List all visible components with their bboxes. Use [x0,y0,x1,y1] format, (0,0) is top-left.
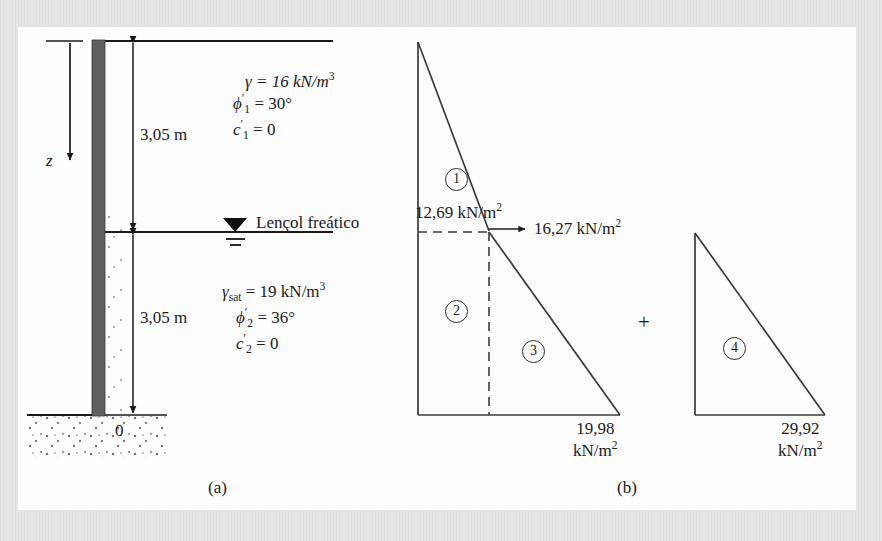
water-table-triangle-icon [223,218,247,232]
value-19-98: 19,98 [573,419,618,439]
value-29-92: 29,92 [778,419,823,439]
layer2-properties: γsat = 19 kN/m3 ϕ′2 = 36° c′2 = 0 [222,280,325,358]
label-pressure-19-98: 19,98 kN/m2 [573,419,618,461]
unit-29-92: kN/m2 [778,439,823,461]
region3-diagonal [489,232,620,415]
caption-a: (a) [208,478,227,498]
z-axis-label: z [46,150,53,172]
figure-root: z 3,05 m 3,05 m 0 Lençol freático γ = 16… [0,0,882,541]
label-pressure-16-27: 16,27 kN/m2 [534,217,621,239]
layer1-cohesion: c′1 = 0 [233,118,335,144]
layer2-unit-weight: γsat = 19 kN/m3 [222,280,325,306]
region-3-marker: 3 [522,340,545,363]
dimension-label-layer1: 3,05 m [140,124,187,146]
backfill-stipple [106,216,132,415]
label-pressure-29-92: 29,92 kN/m2 [778,419,823,461]
layer2-friction-angle: ϕ′2 = 36° [236,306,325,332]
dimension-label-layer2: 3,05 m [140,307,187,329]
caption-b: (b) [617,478,637,498]
unit-19-98: kN/m2 [573,439,618,461]
region-2-marker: 2 [445,300,468,323]
retaining-wall [92,40,105,416]
layer1-friction-angle: ϕ′1 = 30° [233,92,335,118]
soil-stipple-region [27,416,167,458]
plus-operator: + [638,310,650,335]
datum-label: 0 [115,420,124,442]
layer2-cohesion: c′2 = 0 [236,332,325,358]
label-pressure-12-69: 12,69 kN/m2 [415,201,502,223]
region4-diagonal [695,233,825,415]
layer1-properties: γ = 16 kN/m3 ϕ′1 = 30° c′1 = 0 [245,70,335,144]
water-table-label: Lençol freático [256,212,359,234]
figure-vector-layer [0,0,882,541]
layer1-unit-weight: γ = 16 kN/m3 [245,70,335,92]
region-4-marker: 4 [723,337,746,360]
region-1-marker: 1 [445,168,468,191]
